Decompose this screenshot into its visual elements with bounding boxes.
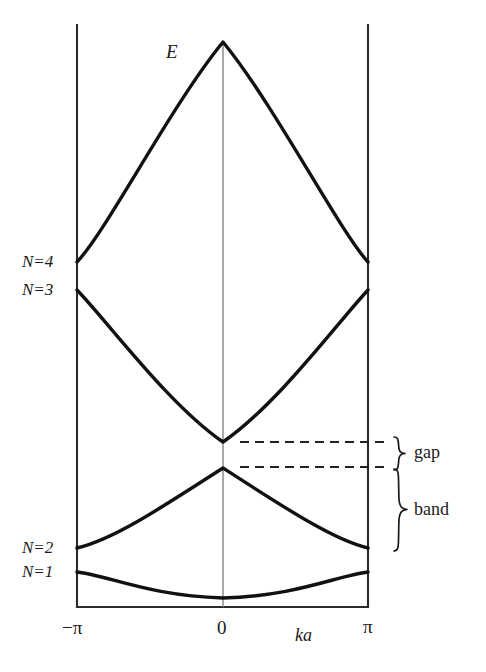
band-label-n2: N=2: [22, 539, 53, 556]
annotation-band-label: band: [414, 500, 449, 518]
x-tick-label-left: −π: [62, 618, 82, 637]
band-label-n1: N=1: [22, 563, 53, 580]
band-label-n4: N=4: [22, 253, 53, 270]
gap-brace: [394, 437, 405, 470]
band-label-n3: N=3: [22, 281, 53, 298]
band-label-n2-text: N=2: [22, 538, 53, 557]
y-axis-label: E: [166, 42, 178, 61]
band-label-n1-text: N=1: [22, 562, 53, 581]
x-tick-label-center: 0: [217, 618, 227, 637]
plot-canvas: [0, 0, 486, 672]
band-brace: [394, 469, 407, 551]
band-label-n4-text: N=4: [22, 252, 53, 271]
x-tick-label-right: π: [363, 617, 373, 636]
annotation-gap-label: gap: [414, 443, 440, 461]
x-axis-label: ka: [295, 626, 312, 644]
band-label-n3-text: N=3: [22, 280, 53, 299]
band-structure-figure: E N=4 N=3 N=2 N=1 −π 0 π ka gap band: [0, 0, 486, 672]
